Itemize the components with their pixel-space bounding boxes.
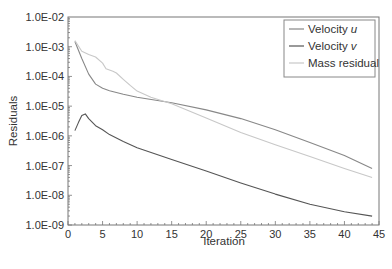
y-tick-label: 1.0E-06 [25, 130, 64, 142]
x-tick-label: 45 [373, 228, 385, 240]
x-tick-label: 30 [269, 228, 281, 240]
residuals-chart: 1.0E-021.0E-031.0E-041.0E-051.0E-061.0E-… [0, 0, 392, 269]
y-tick-label: 1.0E-04 [25, 70, 64, 82]
legend-label: Mass residual [308, 57, 379, 69]
legend-label: Velocity u [308, 23, 358, 35]
x-axis-title: Iteration [203, 235, 245, 247]
x-tick-label: 15 [166, 228, 178, 240]
x-tick-label: 0 [65, 228, 71, 240]
y-tick-label: 1.0E-03 [25, 41, 64, 53]
y-tick-label: 1.0E-09 [25, 219, 64, 231]
y-tick-label: 1.0E-02 [25, 11, 64, 23]
x-tick-label: 35 [304, 228, 316, 240]
y-tick-label: 1.0E-05 [25, 100, 64, 112]
y-tick-label: 1.0E-08 [25, 189, 64, 201]
x-tick-label: 5 [99, 228, 105, 240]
y-tick-label: 1.0E-07 [25, 160, 64, 172]
x-tick-label: 10 [131, 228, 143, 240]
y-tick-labels: 1.0E-021.0E-031.0E-041.0E-051.0E-061.0E-… [25, 11, 64, 231]
y-axis-title: Residuals [7, 96, 19, 147]
legend-label: Velocity v [308, 40, 358, 52]
x-tick-label: 40 [338, 228, 350, 240]
legend: Velocity uVelocity vMass residual [284, 20, 379, 77]
